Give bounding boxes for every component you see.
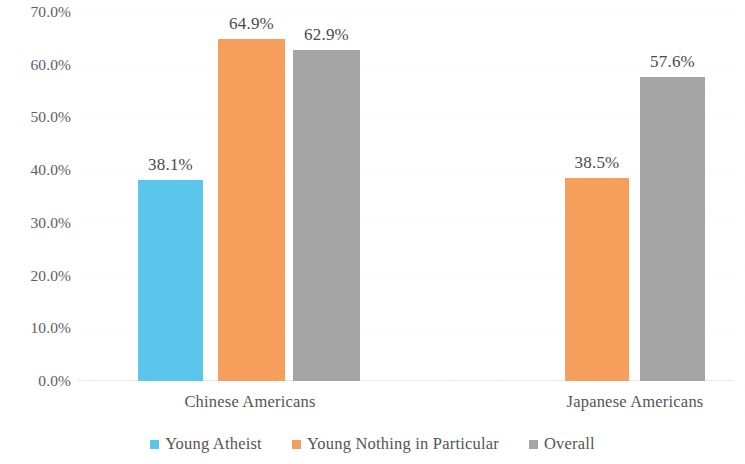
bar-japanese-overall[interactable] — [640, 77, 705, 381]
legend-swatch-orange-icon — [292, 440, 301, 449]
bar-label-chinese-young-atheist: 38.1% — [148, 155, 193, 175]
bar-chinese-young-nothing-in-particular[interactable] — [218, 39, 285, 381]
legend-label-young-nothing-in-particular: Young Nothing in Particular — [307, 436, 499, 453]
legend-item-young-atheist[interactable]: Young Atheist — [150, 436, 262, 453]
y-tick-label-0: 0.0% — [38, 372, 71, 390]
y-tick-label-40: 40.0% — [30, 161, 71, 179]
gridline-60 — [78, 65, 733, 66]
bar-japanese-young-nothing-in-particular[interactable] — [565, 178, 629, 381]
gridline-50 — [78, 117, 733, 118]
legend-item-young-nothing-in-particular[interactable]: Young Nothing in Particular — [292, 436, 499, 453]
legend-swatch-gray-icon — [529, 440, 538, 449]
bar-label-chinese-young-nothing-in-particular: 64.9% — [229, 14, 274, 34]
y-tick-label-10: 10.0% — [30, 319, 71, 337]
legend-swatch-blue-icon — [150, 440, 159, 449]
y-tick-label-50: 50.0% — [30, 108, 71, 126]
y-tick-label-30: 30.0% — [30, 214, 71, 232]
category-label-chinese-americans: Chinese Americans — [184, 392, 315, 412]
bar-chinese-overall[interactable] — [293, 50, 360, 382]
category-label-japanese-americans: Japanese Americans — [567, 392, 704, 412]
y-tick-label-70: 70.0% — [30, 3, 71, 21]
bar-label-chinese-overall: 62.9% — [304, 25, 349, 45]
legend-label-young-atheist: Young Atheist — [165, 436, 262, 453]
y-tick-label-20: 20.0% — [30, 267, 71, 285]
grouped-bar-chart: 70.0% 60.0% 50.0% 40.0% 30.0% 20.0% 10.0… — [0, 0, 745, 464]
bar-chinese-young-atheist[interactable] — [138, 180, 203, 381]
y-tick-label-60: 60.0% — [30, 56, 71, 74]
legend-item-overall[interactable]: Overall — [529, 436, 595, 453]
legend: Young Atheist Young Nothing in Particula… — [0, 436, 745, 453]
bar-label-japanese-young-nothing-in-particular: 38.5% — [575, 153, 620, 173]
plot-area: 70.0% 60.0% 50.0% 40.0% 30.0% 20.0% 10.0… — [78, 12, 733, 381]
bar-label-japanese-overall: 57.6% — [650, 52, 695, 72]
gridline-70 — [78, 12, 733, 13]
legend-label-overall: Overall — [544, 436, 595, 453]
